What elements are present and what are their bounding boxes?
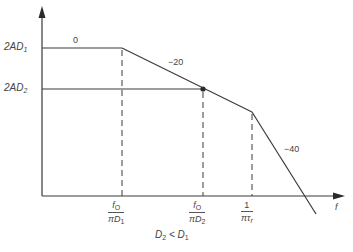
tick-2-numerator: fO	[191, 201, 203, 212]
slope-label-20: −20	[168, 58, 183, 67]
y-axis-arrow-icon	[39, 6, 46, 18]
slope-label-40: −40	[284, 145, 299, 154]
y-label-2ad2-sub: 2	[23, 87, 27, 94]
y-label-2ad2-main: 2AD	[4, 82, 23, 93]
y-label-2ad1: 2AD1	[4, 42, 27, 53]
tick-2-denominator: πD2	[189, 213, 205, 225]
slope-20-segment	[122, 48, 252, 112]
intersection-dot	[200, 86, 205, 91]
y-label-2ad1-sub: 1	[23, 46, 27, 53]
x-axis-label: f	[335, 203, 338, 212]
tick-1-numerator: fO	[110, 201, 122, 212]
caption-d2-less-d1: D2 < D1	[155, 230, 189, 241]
x-axis-arrow-icon	[333, 193, 345, 200]
tick-fo-pi-d2: fO πD2	[189, 201, 205, 225]
slope-label-0: 0	[73, 36, 78, 45]
y-label-2ad1-main: 2AD	[4, 41, 23, 52]
slope-40-segment	[252, 112, 316, 214]
tick-1-pi-tau-r: 1 πτr	[241, 201, 253, 224]
tick-fo-pi-d1: fO πD1	[108, 201, 124, 225]
tick-3-denominator: πτr	[241, 212, 253, 224]
y-label-2ad2: 2AD2	[4, 83, 27, 94]
diagram-canvas	[0, 0, 353, 252]
tick-1-denominator: πD1	[108, 213, 124, 225]
tick-3-numerator: 1	[242, 201, 251, 211]
